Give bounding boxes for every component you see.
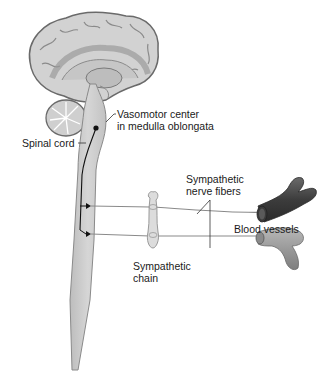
label-line: Sympathetic	[133, 260, 191, 272]
label-line: Vasomotor center	[117, 108, 214, 120]
vasomotor-leader	[106, 114, 116, 122]
label-vasomotor-center: Vasomotor center in medulla oblongata	[117, 108, 214, 132]
label-line: Sympathetic	[186, 173, 244, 185]
label-line: in medulla oblongata	[117, 120, 214, 132]
diagram-stage: Vasomotor center in medulla oblongata Sp…	[0, 0, 321, 384]
anatomy-illustration	[0, 0, 321, 384]
cerebellum	[46, 100, 86, 136]
label-line: chain	[133, 272, 191, 284]
label-line: nerve fibers	[186, 185, 244, 197]
label-sympathetic-nerve-fibers: Sympathetic nerve fibers	[186, 173, 244, 197]
sympathetic-chain	[147, 192, 158, 248]
label-spinal-cord: Spinal cord	[22, 137, 75, 149]
blood-vessel-artery	[257, 177, 316, 222]
label-blood-vessels: Blood vessels	[234, 223, 299, 235]
label-sympathetic-chain: Sympathetic chain	[133, 260, 191, 284]
